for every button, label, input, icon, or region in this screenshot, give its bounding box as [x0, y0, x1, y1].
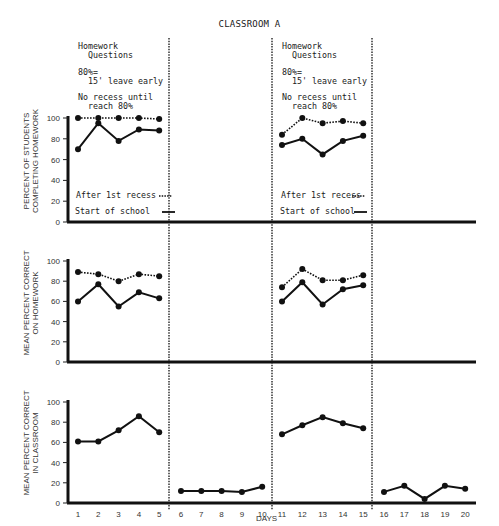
data-point	[299, 422, 305, 428]
data-point	[219, 488, 225, 494]
y-tick-label: 60	[51, 297, 60, 306]
data-point	[136, 115, 142, 121]
data-point	[320, 301, 326, 307]
x-tick-label: 6	[179, 510, 184, 519]
data-point	[340, 138, 346, 144]
y-tick-label: 100	[47, 398, 61, 407]
x-tick-label: 7	[199, 510, 204, 519]
phase-note-1-criterion: 80%= 15' leave early	[78, 68, 163, 85]
legend-after-recess-1: After 1st recess	[76, 190, 156, 200]
data-point	[299, 136, 305, 142]
y-axis-label-panel-2: MEAN PERCENT CORRECT ON HOMEWORK	[22, 248, 40, 358]
data-point	[75, 146, 81, 152]
x-tick-label: 19	[440, 510, 449, 519]
data-point	[279, 142, 285, 148]
y-tick-label: 40	[51, 318, 60, 327]
data-point	[95, 271, 101, 277]
phase-note-2-criterion: 80%= 15' leave early	[282, 68, 367, 85]
data-point	[299, 115, 305, 121]
data-point	[360, 133, 366, 139]
phase-note-2-title: Homework Questions	[282, 42, 337, 59]
x-tick-label: 11	[278, 510, 287, 519]
y-tick-label: 40	[51, 176, 60, 185]
data-point	[178, 488, 184, 494]
x-tick-label: 9	[240, 510, 245, 519]
legend-start-school-1: Start of school	[75, 206, 150, 216]
data-point	[340, 118, 346, 124]
data-point	[279, 132, 285, 138]
y-tick-label: 80	[51, 277, 60, 286]
y-tick-label: 0	[56, 499, 61, 508]
data-point	[320, 120, 326, 126]
data-point	[360, 425, 366, 431]
x-tick-label: 17	[400, 510, 409, 519]
y-tick-label: 20	[51, 479, 60, 488]
data-point	[156, 295, 162, 301]
series-line-solid	[78, 284, 159, 306]
x-tick-label: 15	[359, 510, 368, 519]
data-point	[299, 279, 305, 285]
data-point	[116, 278, 122, 284]
y-tick-label: 60	[51, 438, 60, 447]
data-point	[320, 151, 326, 157]
data-point	[401, 483, 407, 489]
data-point	[136, 413, 142, 419]
x-tick-label: 18	[420, 510, 429, 519]
phase-note-1-contingency: No recess until reach 80%	[78, 93, 153, 110]
data-point	[116, 427, 122, 433]
data-point	[75, 269, 81, 275]
x-axis-label: DAYS	[256, 514, 277, 523]
x-tick-label: 3	[116, 510, 121, 519]
data-point	[95, 115, 101, 121]
y-tick-label: 100	[47, 257, 61, 266]
data-point	[340, 420, 346, 426]
data-point	[360, 120, 366, 126]
data-point	[320, 277, 326, 283]
y-axis-label-panel-3: MEAN PERCENT CORRECT IN CLASSROOM	[22, 388, 40, 498]
y-tick-label: 20	[51, 197, 60, 206]
chart-canvas: 0204060801000204060801000204060801001234…	[0, 0, 499, 526]
data-point	[136, 271, 142, 277]
y-tick-label: 0	[56, 218, 61, 227]
data-point	[75, 298, 81, 304]
x-tick-label: 5	[157, 510, 162, 519]
y-axis-label-panel-1: PERCENT OF STUDENTS COMPLETING HOMEWORK	[22, 106, 40, 216]
data-point	[360, 282, 366, 288]
data-point	[156, 273, 162, 279]
y-tick-label: 80	[51, 135, 60, 144]
data-point	[340, 286, 346, 292]
data-point	[462, 486, 468, 492]
data-point	[116, 115, 122, 121]
data-point	[116, 138, 122, 144]
data-point	[156, 116, 162, 122]
data-point	[95, 438, 101, 444]
data-point	[198, 488, 204, 494]
y-tick-label: 20	[51, 338, 60, 347]
series-line-solid	[282, 282, 363, 304]
legend-after-recess-2: After 1st recess	[281, 190, 361, 200]
x-tick-label: 13	[318, 510, 327, 519]
data-point	[259, 484, 265, 490]
data-point	[360, 272, 366, 278]
data-point	[95, 281, 101, 287]
y-tick-label: 60	[51, 156, 60, 165]
data-point	[239, 489, 245, 495]
data-point	[75, 438, 81, 444]
phase-note-2-contingency: No recess until reach 80%	[282, 93, 357, 110]
legend-start-school-2: Start of school	[280, 206, 355, 216]
x-tick-label: 1	[76, 510, 81, 519]
data-point	[279, 298, 285, 304]
data-point	[116, 303, 122, 309]
data-point	[156, 127, 162, 133]
phase-note-1-title: Homework Questions	[78, 42, 133, 59]
data-point	[340, 277, 346, 283]
x-tick-label: 8	[219, 510, 224, 519]
data-point	[320, 414, 326, 420]
data-point	[442, 483, 448, 489]
x-tick-label: 12	[298, 510, 307, 519]
data-point	[136, 126, 142, 132]
data-point	[381, 489, 387, 495]
x-tick-label: 14	[338, 510, 347, 519]
series-line-solid	[78, 123, 159, 149]
data-point	[75, 115, 81, 121]
